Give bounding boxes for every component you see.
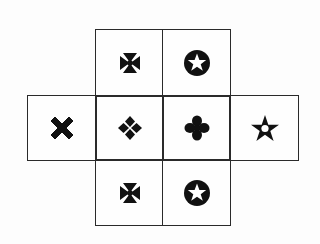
four-lobes-icon [184, 115, 210, 141]
cell-mid-left [95, 95, 164, 161]
circled-star-icon [183, 49, 211, 77]
heavy-x-icon [50, 116, 74, 140]
cell-mid-right [162, 95, 231, 161]
black-center-white-star-icon [250, 114, 280, 142]
cell-mid-far-left [27, 95, 96, 161]
cell-bottom-left [95, 160, 164, 226]
cell-top-left [95, 29, 164, 96]
maltese-cross-icon [119, 182, 141, 204]
circled-star-icon [183, 179, 211, 207]
cell-mid-far-right [230, 95, 299, 161]
four-diamonds-icon [117, 115, 143, 141]
cell-top-right [162, 29, 231, 96]
maltese-cross-icon [119, 52, 141, 74]
cell-bottom-right [162, 160, 231, 226]
